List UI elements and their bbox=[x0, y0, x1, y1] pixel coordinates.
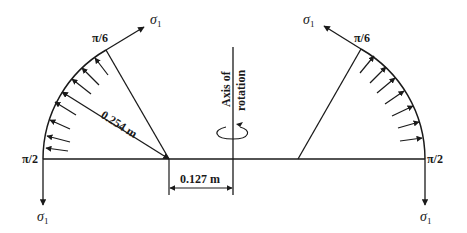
pi6-right-label: π/6 bbox=[354, 31, 370, 45]
left-arc bbox=[43, 50, 106, 159]
pi2-left-label: π/2 bbox=[22, 152, 38, 166]
right-pressure-arrows bbox=[360, 56, 422, 141]
diagram-canvas: σ1 σ1 σ1 σ1 π/6 π/6 π/2 π/2 0.254 m 0.12… bbox=[0, 0, 467, 233]
sigma-top-right-label: σ1 bbox=[303, 12, 314, 29]
rotation-icon bbox=[217, 127, 248, 139]
left-top-sigma-arrow bbox=[106, 27, 144, 50]
axis-label-line1: Axis of bbox=[219, 70, 233, 107]
sigma-bottom-right-label: σ1 bbox=[420, 209, 431, 226]
sigma-top-left-label: σ1 bbox=[150, 12, 161, 29]
pi2-right-label: π/2 bbox=[427, 152, 443, 166]
offset-label: 0.127 m bbox=[180, 172, 220, 186]
sigma-bottom-left-label: σ1 bbox=[37, 209, 48, 226]
right-pi6-radius bbox=[298, 49, 361, 159]
pi6-left-label: π/6 bbox=[92, 31, 108, 45]
left-pi6-radius bbox=[106, 50, 169, 159]
rotation-arrowhead-icon bbox=[236, 122, 243, 127]
axis-label-line2: rotation bbox=[234, 70, 248, 111]
diagram-svg: σ1 σ1 σ1 σ1 π/6 π/6 π/2 π/2 0.254 m 0.12… bbox=[0, 0, 467, 233]
radius-label: 0.254 m bbox=[98, 108, 139, 141]
right-arc bbox=[361, 49, 425, 159]
